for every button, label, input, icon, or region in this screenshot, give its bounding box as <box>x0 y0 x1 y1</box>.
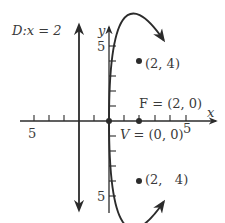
vertex-label-text: = (0, 0) <box>129 127 183 142</box>
point-lower-label: (2, 4) <box>145 172 188 187</box>
focus-point <box>136 118 142 124</box>
vertex-point <box>106 118 112 124</box>
point-lower-marker <box>136 178 142 184</box>
point-upper: (2, 4) <box>136 56 180 71</box>
focus: F = (2, 0) <box>136 96 202 124</box>
point-lower: (2, 4) <box>136 172 188 187</box>
parabola-diagram: 5 5 x 5 5 y D: <box>0 0 225 223</box>
focus-label: F = (2, 0) <box>139 96 202 111</box>
y-tick-label-pos: 5 <box>97 39 105 54</box>
vertex-label: V = (0, 0) <box>120 127 184 142</box>
directrix: D:x = 2 <box>11 23 79 210</box>
x-tick-label-pos: 5 <box>183 121 191 136</box>
x-tick-label-neg: 5 <box>28 126 36 141</box>
point-upper-marker <box>136 58 142 64</box>
directrix-label: D:x = 2 <box>11 23 62 38</box>
point-upper-label: (2, 4) <box>145 56 180 71</box>
y-tick-label-neg: 5 <box>97 189 105 204</box>
x-axis-label: x <box>207 105 215 120</box>
y-axis-label: y <box>97 23 106 38</box>
